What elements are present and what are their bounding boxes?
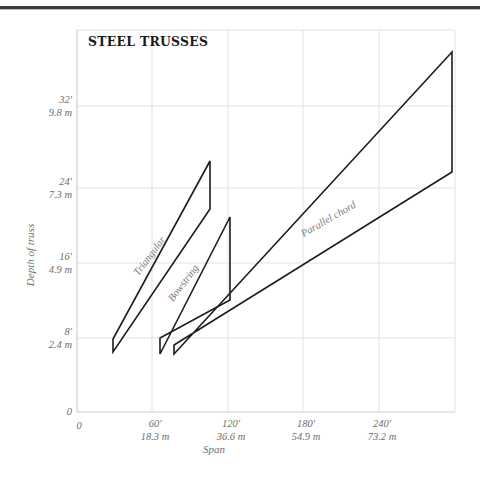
y-tick-labels: 32' 9.8 m 24' 7.3 m 16' 4.9 m 8' 2.4 m 0 — [49, 94, 73, 417]
figure-root: STEEL TRUSSES 32' 9.8 m 24' 7.3 m 16' 4.… — [0, 0, 480, 485]
plot-frame — [77, 30, 455, 412]
x-tick-meters-180: 54.9 m — [292, 431, 321, 442]
x-tick-meters-240: 73.2 m — [368, 431, 397, 442]
y-tick-feet-24: 24' — [59, 176, 73, 187]
series-label-bowstring: Bowstring — [166, 262, 201, 303]
x-axis-title: Span — [203, 443, 226, 455]
x-tick-meters-60: 18.3 m — [141, 431, 170, 442]
y-tick-meters-32: 9.8 m — [49, 107, 73, 118]
y-tick-meters-16: 4.9 m — [49, 264, 73, 275]
y-gridlines — [77, 106, 455, 338]
x-tick-labels: 0 60' 18.3 m 120' 36.6 m 180' 54.9 m 240… — [76, 418, 396, 442]
steel-trusses-chart: STEEL TRUSSES 32' 9.8 m 24' 7.3 m 16' 4.… — [0, 0, 480, 485]
x-tick-meters-120: 36.6 m — [216, 431, 246, 442]
x-tick-feet-60: 60' — [149, 418, 163, 429]
y-axis-title: Depth of truss — [24, 224, 36, 287]
x-tick-zero: 0 — [76, 420, 82, 431]
y-tick-meters-24: 7.3 m — [49, 189, 73, 200]
series-region-parallel-chord — [174, 52, 452, 354]
x-tick-feet-240: 240' — [373, 418, 392, 429]
y-tick-feet-8: 8' — [65, 326, 73, 337]
axis-spines — [77, 30, 455, 412]
series-region-bowstring — [160, 217, 230, 354]
series-region-triangular — [113, 161, 210, 352]
y-tick-feet-32: 32' — [58, 94, 73, 105]
x-tick-feet-120: 120' — [222, 418, 241, 429]
y-tick-feet-16: 16' — [59, 251, 73, 262]
y-tick-zero: 0 — [67, 406, 73, 417]
plot-title: STEEL TRUSSES — [88, 34, 208, 49]
series-label-parallel-chord: Parallel chord — [298, 199, 358, 240]
y-tick-meters-8: 2.4 m — [49, 339, 73, 350]
x-tick-feet-180: 180' — [297, 418, 316, 429]
x-gridlines — [152, 30, 379, 412]
